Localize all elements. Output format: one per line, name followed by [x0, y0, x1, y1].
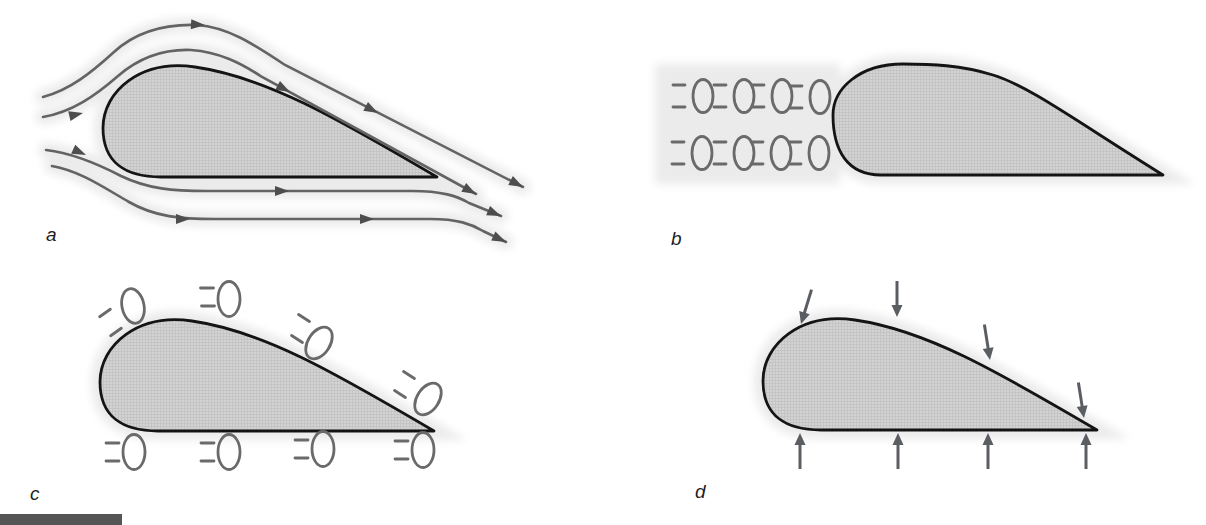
panel-c-label: c: [30, 483, 40, 504]
figure-canvas: a b: [0, 0, 1206, 525]
panel-d-label: d: [695, 481, 707, 502]
molecule: [201, 282, 241, 317]
panel-b: b: [655, 64, 1163, 249]
panel-a-label: a: [46, 224, 57, 245]
airfoil-b: [833, 64, 1163, 175]
figure-number-bar: [0, 514, 122, 525]
panel-a: a: [43, 19, 525, 246]
airfoil-diagram: a b: [0, 0, 1206, 525]
panel-c: c: [30, 282, 447, 505]
panel-b-label: b: [671, 228, 682, 249]
panel-d: d: [695, 281, 1097, 502]
